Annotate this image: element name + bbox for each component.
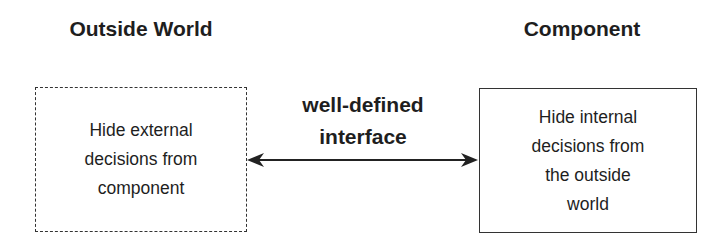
bidirectional-arrow-icon xyxy=(0,0,728,249)
